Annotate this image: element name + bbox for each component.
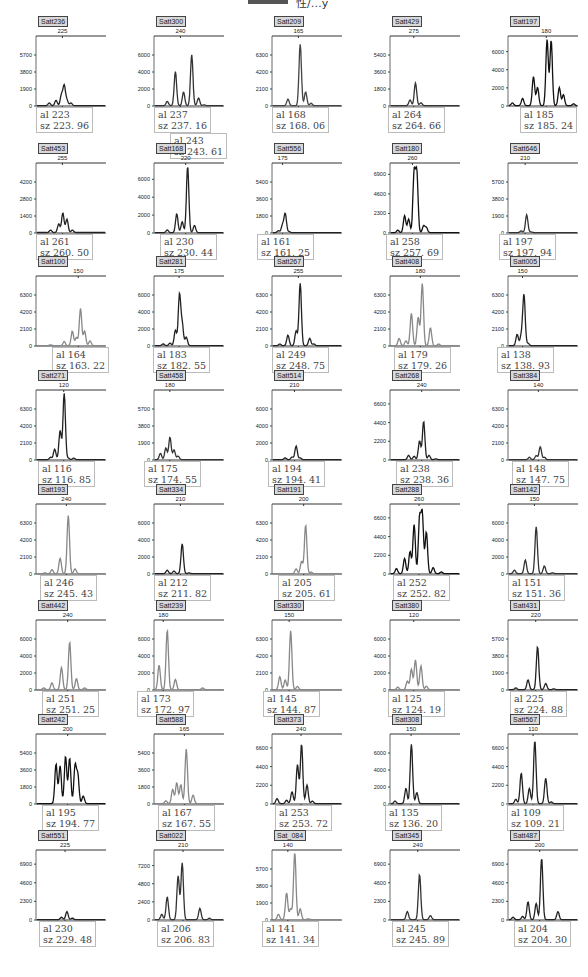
electropherogram-plot: 1650210042006300 [246,26,342,114]
electropherogram-plot: 2100200040006000 [246,380,342,468]
y-tick-label: 4600 [374,191,386,197]
y-tick-label: 6000 [138,52,150,58]
allele-value: al 141 [266,923,315,934]
y-tick-label: 3800 [20,69,32,75]
top-size-tick-label: 150 [73,268,84,274]
electropherogram-panel: Satt4872000230046006900al 204sz 204. 30 [482,830,588,945]
allele-value: al 204 [518,923,567,934]
y-tick-label: 0 [29,457,32,463]
signal-trace [37,912,105,920]
electropherogram-plot: 1400190038005700 [246,840,342,928]
electropherogram-panel: Satt1971800200040006000al 185sz 185. 24 [482,16,588,131]
y-tick-label: 4000 [374,767,386,773]
y-tick-label: 6300 [20,520,32,526]
signal-trace [155,863,223,920]
y-tick-label: 5700 [256,866,268,872]
electropherogram-panel: Satt2391800200040006000al 173sz 172. 97 [128,600,238,715]
top-size-tick-label: 240 [61,496,72,502]
y-tick-label: 0 [501,571,504,577]
electropherogram-panel: Satt3301500210042006300al 145sz 144. 87 [246,600,356,715]
y-tick-label: 0 [147,571,150,577]
electropherogram-plot: 1500210042006300 [482,266,578,354]
top-size-tick-label: 225 [60,842,71,848]
y-tick-label: 6300 [20,292,32,298]
y-tick-label: 0 [29,687,32,693]
allele-callout: al 246sz 245. 43 [40,575,97,601]
y-tick-label: 2000 [374,670,386,676]
electropherogram-plot: 1500200040006000 [364,724,460,812]
size-value: sz 151. 36 [512,588,561,599]
top-size-tick-label: 240 [63,612,74,618]
allele-callout: al 205sz 205. 61 [278,575,335,601]
top-size-tick-label: 220 [531,612,542,618]
allele-value: al 225 [514,693,563,704]
y-tick-label: 0 [265,801,268,807]
electropherogram-panel: Satt1001500210042006300al 164sz 163. 22 [10,256,120,371]
y-tick-label: 4000 [256,423,268,429]
y-tick-label: 4200 [256,537,268,543]
allele-callout: al 185sz 185. 24 [520,107,577,133]
y-tick-label: 2100 [492,326,504,332]
allele-value: al 164 [56,349,105,360]
signal-trace [391,284,459,346]
electropherogram-panel: Satt2362250190038005700al 223sz 223. 96 [10,16,120,131]
y-tick-label: 4200 [492,423,504,429]
y-tick-label: 6000 [256,406,268,412]
y-tick-label: 6000 [492,49,504,55]
electropherogram-plot: 2400200040006000 [10,610,106,698]
size-value: sz 237. 16 [158,120,207,131]
allele-value: al 237 [158,109,207,120]
y-tick-label: 2400 [138,899,150,905]
signal-trace [37,757,105,804]
top-size-tick-label: 150 [529,496,540,502]
allele-value: al 167 [162,807,211,818]
allele-value: al 145 [267,693,316,704]
size-value: sz 223. 96 [40,120,89,131]
size-value: sz 253. 72 [279,818,328,829]
allele-callout: al 135sz 136. 20 [385,805,442,831]
top-size-tick-label: 275 [409,28,420,34]
electropherogram-panel: Satt3801200200040006000al 125sz 124. 19 [364,600,474,715]
electropherogram-panel: Satt1912000210042006300al 205sz 205. 61 [246,484,356,599]
allele-callout: al 195sz 194. 77 [42,805,99,831]
electropherogram-plot: 2550140028004200 [10,153,106,241]
signal-trace [37,643,105,690]
electropherogram-plot: 2600220044006600 [364,494,460,582]
allele-callout: al 206sz 206. 83 [157,921,214,947]
size-value: sz 229. 48 [43,934,92,945]
y-tick-label: 2100 [20,554,32,560]
y-tick-label: 4200 [20,179,32,185]
y-tick-label: 6300 [20,406,32,412]
electropherogram-plot: 1750180036005400 [246,153,342,241]
y-tick-label: 2100 [256,86,268,92]
allele-value: al 194 [272,463,321,474]
y-tick-label: 0 [29,103,32,109]
top-size-tick-label: 165 [293,28,304,34]
y-tick-label: 2000 [20,670,32,676]
electropherogram-panel: Satt4312200190038005700al 225sz 224. 88 [482,600,588,715]
electropherogram-panel: Satt2422000180036005400al 195sz 194. 77 [10,714,120,829]
electropherogram-panel: Satt4422400200040006000al 251sz 251. 25 [10,600,120,715]
y-tick-label: 2000 [138,670,150,676]
electropherogram-plot: 1650180036005400 [128,724,224,812]
signal-trace [37,85,105,106]
allele-callout: al 230sz 229. 48 [39,921,96,947]
electropherogram-panel: Satt2711200210042006300al 116sz 116. 85 [10,370,120,485]
y-tick-label: 4600 [20,880,32,886]
allele-value: al 264 [392,109,441,120]
top-size-tick-label: 150 [406,726,417,732]
electropherogram-plot: 2200200040006000 [128,153,224,241]
signal-trace [391,83,459,106]
top-size-tick-label: 260 [414,496,425,502]
y-tick-label: 1800 [256,213,268,219]
electropherogram-panel: Sat_0841400190038005700al 141sz 141. 34 [246,830,356,945]
y-tick-label: 0 [29,571,32,577]
y-tick-label: 4200 [20,309,32,315]
top-size-tick-label: 180 [541,28,552,34]
y-tick-label: 0 [147,230,150,236]
allele-value: al 148 [516,463,565,474]
top-size-tick-label: 220 [181,155,192,161]
allele-callout: al 264sz 264. 66 [388,107,445,133]
electropherogram-plot: 1800200040006000 [128,610,224,698]
electropherogram-plot: 1500210042006300 [246,610,342,698]
